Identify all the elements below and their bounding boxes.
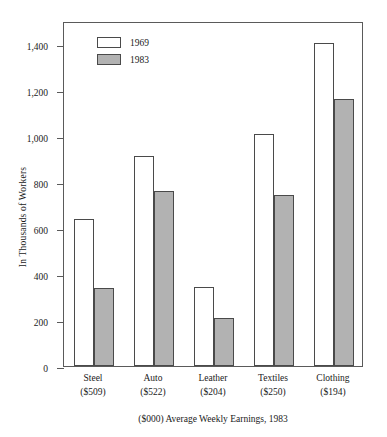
y-axis-tick: 600 — [57, 230, 64, 231]
x-axis-label-textiles: Textiles($250) — [258, 372, 288, 399]
y-axis-tick-label: 1,400 — [27, 42, 48, 52]
x-axis-category-value: ($509) — [80, 386, 105, 400]
x-axis-label-clothing: Clothing($194) — [316, 372, 349, 399]
x-axis-category-name: Steel — [80, 372, 105, 386]
bar-clothing-1983 — [334, 99, 354, 366]
x-axis-category-name: Textiles — [258, 372, 288, 386]
bar-auto-1969 — [134, 156, 154, 366]
y-axis-tick: 1,400 — [57, 46, 64, 47]
x-axis-category-value: ($250) — [258, 386, 288, 400]
chart-caption: ($000) Average Weekly Earnings, 1983 — [63, 414, 363, 424]
bar-textiles-1983 — [274, 195, 294, 366]
x-axis-category-value: ($522) — [140, 386, 165, 400]
y-axis-tick: 1,200 — [57, 92, 64, 93]
x-axis-category-value: ($204) — [198, 386, 227, 400]
bar-steel-1969 — [74, 219, 94, 366]
bar-steel-1983 — [94, 288, 114, 366]
y-axis-tick: 400 — [57, 276, 64, 277]
y-axis-tick-label: 200 — [34, 318, 48, 328]
x-axis-label-leather: Leather($204) — [198, 372, 227, 399]
bar-leather-1983 — [214, 318, 234, 366]
bar-textiles-1969 — [254, 134, 274, 366]
bar-clothing-1969 — [314, 43, 334, 366]
x-axis-labels: Steel($509)Auto($522)Leather($204)Textil… — [63, 372, 363, 412]
x-axis-category-name: Clothing — [316, 372, 349, 386]
x-axis-label-steel: Steel($509) — [80, 372, 105, 399]
y-axis-tick: 1,000 — [57, 138, 64, 139]
bar-chart-figure: In Thousands of Workers 1969 1983 020040… — [0, 0, 387, 437]
y-axis-tick: 200 — [57, 322, 64, 323]
x-axis-category-name: Auto — [140, 372, 165, 386]
y-axis-tick-label: 1,000 — [27, 134, 48, 144]
x-axis-category-name: Leather — [198, 372, 227, 386]
plot-area: 1969 1983 02004006008001,0001,2001,400 — [63, 22, 363, 367]
x-axis-category-value: ($194) — [316, 386, 349, 400]
y-axis-tick: 800 — [57, 184, 64, 185]
bars-layer — [64, 23, 362, 366]
y-axis-tick-label: 800 — [34, 180, 48, 190]
y-axis-tick: 0 — [57, 368, 64, 369]
x-axis-label-auto: Auto($522) — [140, 372, 165, 399]
y-axis-tick-label: 0 — [43, 364, 48, 374]
y-axis-tick-label: 400 — [34, 272, 48, 282]
y-axis-tick-label: 1,200 — [27, 88, 48, 98]
y-axis-tick-label: 600 — [34, 226, 48, 236]
bar-leather-1969 — [194, 287, 214, 366]
bar-auto-1983 — [154, 191, 174, 366]
y-axis-title: In Thousands of Workers — [18, 137, 28, 297]
